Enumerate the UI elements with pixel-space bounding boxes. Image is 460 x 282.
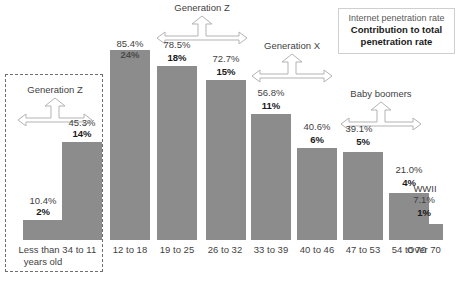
xtick-47-to-53: 47 to 53 (337, 244, 389, 256)
rate-label-47-to-53: 39.1% (333, 124, 385, 134)
chart-canvas: Internet penetration rate Contribution t… (0, 0, 460, 282)
contribution-label-over-70: 1% (398, 208, 450, 218)
bar-4-to-11 (62, 142, 102, 240)
rate-label-19-to-25: 78.5% (151, 40, 203, 50)
rate-label-26-to-32: 72.7% (200, 54, 252, 64)
contribution-label-less-than-3: 2% (18, 207, 68, 217)
contribution-label-54-to-70: 4% (383, 178, 435, 188)
contribution-label-19-to-25: 18% (151, 53, 203, 63)
legend-line-internet-penetration: Internet penetration rate (343, 13, 450, 24)
bar-33-to-39 (251, 114, 291, 240)
contribution-label-33-to-39: 11% (245, 101, 297, 111)
annotation-label: Generation X (244, 40, 340, 51)
bar-47-to-53 (343, 152, 383, 240)
contribution-label-47-to-53: 5% (337, 137, 389, 147)
rate-label-over-70: 7.1% (398, 195, 450, 205)
rate-label-12-to-18: 85.4% (104, 39, 156, 49)
bar-12-to-18 (110, 50, 150, 240)
rate-label-33-to-39: 56.8% (245, 88, 297, 98)
xtick-19-to-25: 19 to 25 (151, 244, 203, 256)
bar-less-than-3 (23, 220, 63, 240)
contribution-label-4-to-11: 14% (55, 129, 109, 139)
annotation-gen-z: Generation Z (150, 2, 254, 44)
xtick-26-to-32: 26 to 32 (199, 244, 251, 256)
annotation-label: Generation Z (150, 2, 254, 13)
bar-19-to-25 (157, 66, 197, 240)
rate-label-less-than-3: 10.4% (18, 196, 68, 206)
bar-over-70 (405, 224, 443, 240)
annotation-label: Baby boomers (333, 88, 429, 99)
annotation-gen-x: Generation X (244, 40, 340, 82)
xtick-4-to-11: 4 to 11 (56, 244, 108, 256)
rate-label-4-to-11: 45.3% (55, 118, 109, 128)
xtick-33-to-39: 33 to 39 (245, 244, 297, 256)
legend: Internet penetration rate Contribution t… (338, 8, 455, 54)
bar-40-to-46 (297, 148, 337, 240)
span-arrow-icon (247, 52, 337, 82)
xtick-40-to-46: 40 to 46 (291, 244, 343, 256)
xtick-over-70: Over 70 (398, 244, 450, 256)
legend-line-contribution: Contribution to total penetration rate (343, 24, 450, 48)
rate-label-54-to-70: 21.0% (383, 165, 435, 175)
annotation-label: Generation Z (10, 84, 100, 95)
bar-26-to-32 (206, 80, 246, 240)
xtick-12-to-18: 12 to 18 (104, 244, 156, 256)
contribution-label-26-to-32: 15% (200, 67, 252, 77)
contribution-label-40-to-46: 6% (291, 135, 343, 145)
contribution-label-12-to-18: 24% (104, 50, 156, 60)
